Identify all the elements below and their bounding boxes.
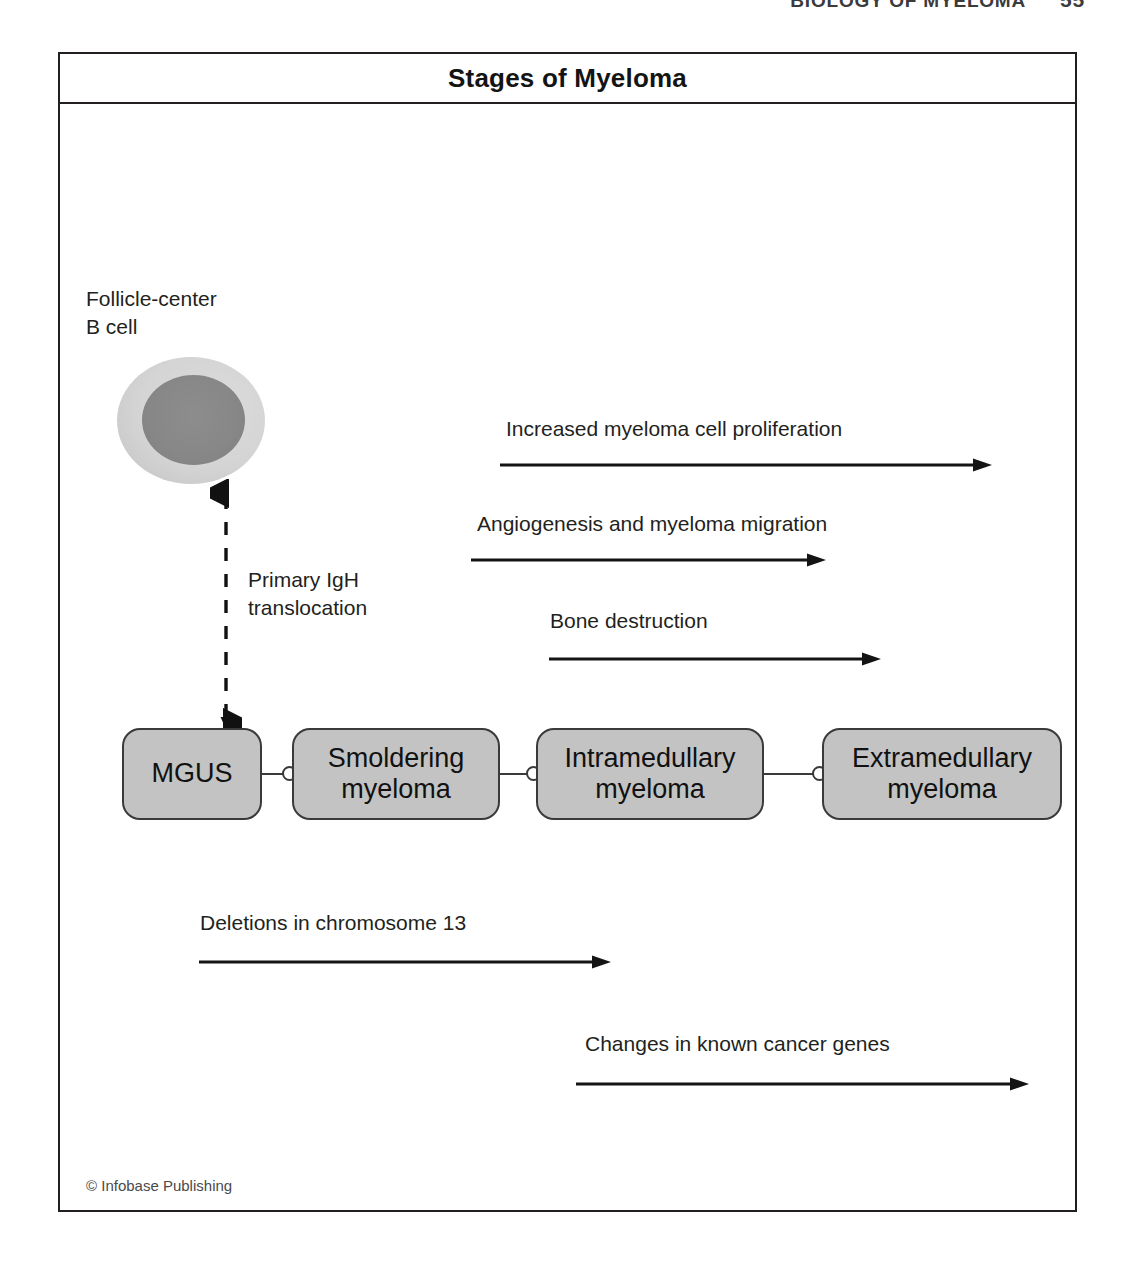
figure-credit: © Infobase Publishing (86, 1177, 232, 1194)
figure-frame: Stages of Myeloma Follicle-center B cell… (58, 52, 1077, 1212)
stage-box[interactable]: Extramedullary myeloma (822, 728, 1062, 820)
follicle-center-b-cell-label: Follicle-center B cell (86, 285, 217, 340)
figure-title-bar: Stages of Myeloma (60, 54, 1075, 104)
process-arrow-icon (549, 650, 881, 668)
primary-igh-translocation-arrow-icon (210, 479, 242, 729)
stage-box[interactable]: Intramedullary myeloma (536, 728, 764, 820)
process-arrow-label: Changes in known cancer genes (585, 1032, 890, 1056)
process-arrow-icon (471, 551, 826, 569)
process-arrow-label: Deletions in chromosome 13 (200, 911, 466, 935)
process-arrow-label: Angiogenesis and myeloma migration (477, 512, 827, 536)
b-cell-nucleus-icon (142, 375, 245, 465)
process-arrow-icon (500, 456, 992, 474)
primary-igh-translocation-label: Primary IgH translocation (248, 566, 367, 621)
page-running-head: BIOLOGY OF MYELOMA55 (790, 0, 1085, 12)
stage-box[interactable]: Smoldering myeloma (292, 728, 500, 820)
figure-title: Stages of Myeloma (448, 63, 687, 94)
process-arrow-icon (199, 953, 611, 971)
process-arrow-label: Increased myeloma cell proliferation (506, 417, 842, 441)
b-cell-illustration (117, 357, 265, 484)
figure-body: Follicle-center B cell Primary IgH trans… (60, 104, 1075, 1210)
stage-box[interactable]: MGUS (122, 728, 262, 820)
process-arrow-label: Bone destruction (550, 609, 708, 633)
process-arrow-icon (576, 1075, 1029, 1093)
running-head-title: BIOLOGY OF MYELOMA (790, 0, 1026, 11)
page-folio: 55 (1060, 0, 1085, 11)
stage-chain: MGUSSmoldering myelomaIntramedullary mye… (60, 728, 1075, 826)
